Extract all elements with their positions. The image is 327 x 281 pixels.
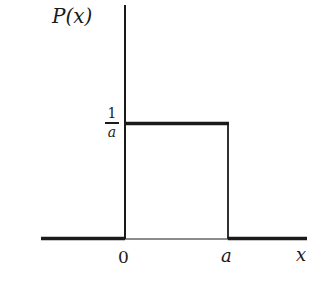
uniform-distribution-plot	[0, 0, 327, 281]
y-axis-label-text: P(x)	[52, 4, 92, 28]
y-axis-label: P(x)	[52, 4, 92, 28]
y-tick-one-over-a: 1 a	[104, 106, 120, 140]
y-tick-denominator: a	[104, 125, 120, 140]
x-tick-zero: 0	[118, 247, 129, 267]
x-tick-a: a	[221, 245, 232, 266]
y-tick-numerator: 1	[104, 106, 120, 121]
x-axis-label: x	[296, 244, 306, 265]
